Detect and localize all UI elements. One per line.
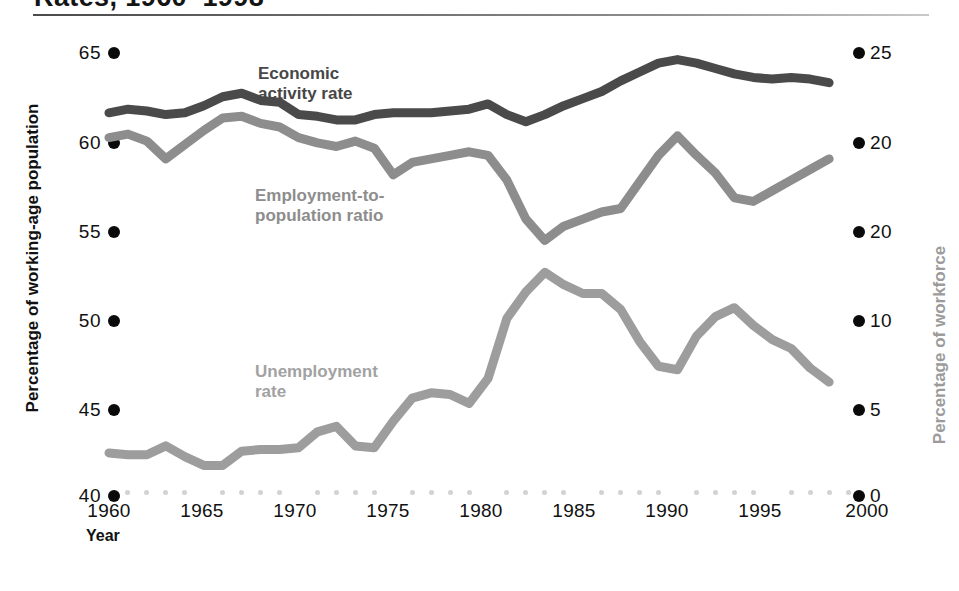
series-label-line-2: activity rate: [258, 84, 353, 104]
series-label-line-2: rate: [255, 382, 378, 402]
series-label-employment-to-population-ratio: Employment-to- population ratio: [255, 186, 384, 226]
series-line-economic-activity-rate: [109, 60, 829, 122]
series-line-unemployment-rate: [109, 272, 829, 465]
chart-figure: Rates, 1960–1998 Percentage of working-a…: [0, 0, 959, 591]
series-line-employment-to-population-ratio: [109, 116, 829, 240]
series-label-unemployment-rate: Unemployment rate: [255, 362, 378, 402]
series-label-line-1: Economic: [258, 64, 353, 84]
plot-area: [0, 0, 959, 591]
series-label-line-2: population ratio: [255, 206, 384, 226]
series-label-line-1: Employment-to-: [255, 186, 384, 206]
series-label-economic-activity-rate: Economic activity rate: [258, 64, 353, 104]
series-label-line-1: Unemployment: [255, 362, 378, 382]
